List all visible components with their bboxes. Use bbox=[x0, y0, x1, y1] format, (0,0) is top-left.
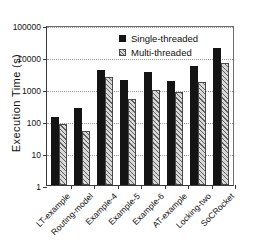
y-tick-mark bbox=[43, 187, 47, 188]
bar-group bbox=[74, 27, 90, 185]
bar-multi-threaded bbox=[105, 77, 113, 185]
bar-multi-threaded bbox=[198, 82, 206, 185]
bar-single-threaded bbox=[74, 108, 82, 185]
y-tick-label: 100 bbox=[27, 118, 41, 128]
bar-group bbox=[213, 27, 229, 185]
x-tick-mark bbox=[71, 185, 72, 189]
legend-label: Multi-threaded bbox=[131, 47, 192, 58]
bar-single-threaded bbox=[51, 117, 59, 185]
legend-item: Single-threaded bbox=[119, 33, 198, 44]
y-tick-label: 10000 bbox=[17, 54, 41, 64]
x-tick-mark bbox=[141, 185, 142, 189]
x-tick-mark bbox=[188, 185, 189, 189]
legend-item: Multi-threaded bbox=[119, 47, 198, 58]
y-tick-label: 10 bbox=[32, 150, 41, 160]
y-tick-label: 1000 bbox=[22, 86, 41, 96]
chart-legend: Single-threadedMulti-threaded bbox=[119, 33, 198, 58]
y-tick-label: 1 bbox=[36, 182, 41, 192]
legend-swatch-icon bbox=[119, 49, 126, 56]
y-tick-label: 100000 bbox=[13, 22, 41, 32]
x-tick-mark bbox=[212, 185, 213, 189]
plot-area: 110100100010000100000 Single-threadedMul… bbox=[46, 26, 234, 186]
x-tick-mark bbox=[165, 185, 166, 189]
bar-single-threaded bbox=[167, 81, 175, 185]
chart-figure: Execution Time (s) 110100100010000100000… bbox=[0, 0, 254, 249]
bar-multi-threaded bbox=[221, 63, 229, 185]
bar-multi-threaded bbox=[152, 90, 160, 185]
bar-group bbox=[51, 27, 67, 185]
bar-multi-threaded bbox=[59, 124, 67, 185]
bar-single-threaded bbox=[190, 66, 198, 185]
bar-single-threaded bbox=[120, 80, 128, 185]
bar-multi-threaded bbox=[128, 99, 136, 185]
x-tick-mark bbox=[118, 185, 119, 189]
bar-group bbox=[97, 27, 113, 185]
x-tick-mark bbox=[235, 185, 236, 189]
bar-multi-threaded bbox=[82, 131, 90, 185]
x-tick-mark bbox=[94, 185, 95, 189]
legend-swatch-icon bbox=[119, 35, 126, 42]
bar-single-threaded bbox=[97, 70, 105, 185]
bar-multi-threaded bbox=[175, 92, 183, 185]
legend-label: Single-threaded bbox=[131, 33, 198, 44]
bar-single-threaded bbox=[144, 72, 152, 185]
bar-single-threaded bbox=[213, 48, 221, 185]
